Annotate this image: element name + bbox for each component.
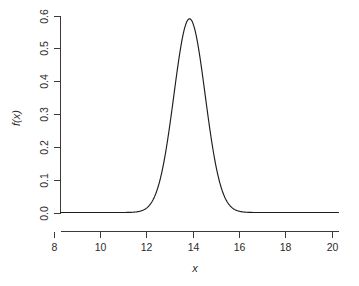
x-axis-ticks (55, 232, 333, 239)
x-tick-label-16: 16 (234, 241, 246, 253)
x-axis-tick-labels: 8101214161820 (52, 241, 339, 253)
y-tick-label-0.4: 0.4 (38, 74, 50, 89)
y-tick-label-0.6: 0.6 (38, 9, 50, 24)
x-axis: 8101214161820 x (52, 232, 339, 275)
x-tick-label-10: 10 (95, 241, 107, 253)
y-axis-title: f(x) (10, 110, 22, 126)
x-tick-label-8: 8 (52, 241, 58, 253)
x-tick-label-18: 18 (280, 241, 292, 253)
y-tick-label-0.2: 0.2 (38, 140, 50, 155)
y-axis-ticks (54, 17, 61, 214)
y-tick-label-0.0: 0.0 (38, 206, 50, 221)
density-curve-group (61, 19, 339, 213)
plot-canvas: 0.00.10.20.30.40.50.6 f(x) 8101214161820… (0, 0, 359, 286)
x-tick-label-12: 12 (141, 241, 153, 253)
x-tick-label-14: 14 (188, 241, 200, 253)
y-tick-label-0.3: 0.3 (38, 107, 50, 122)
normal-density-curve (61, 19, 339, 213)
y-axis-tick-labels: 0.00.10.20.30.40.50.6 (38, 9, 50, 221)
y-tick-label-0.5: 0.5 (38, 41, 50, 56)
x-axis-title: x (191, 262, 198, 274)
x-tick-label-20: 20 (327, 241, 339, 253)
y-tick-label-0.1: 0.1 (38, 173, 50, 188)
y-axis: 0.00.10.20.30.40.50.6 f(x) (10, 9, 61, 221)
density-plot-figure: 0.00.10.20.30.40.50.6 f(x) 8101214161820… (0, 0, 359, 286)
